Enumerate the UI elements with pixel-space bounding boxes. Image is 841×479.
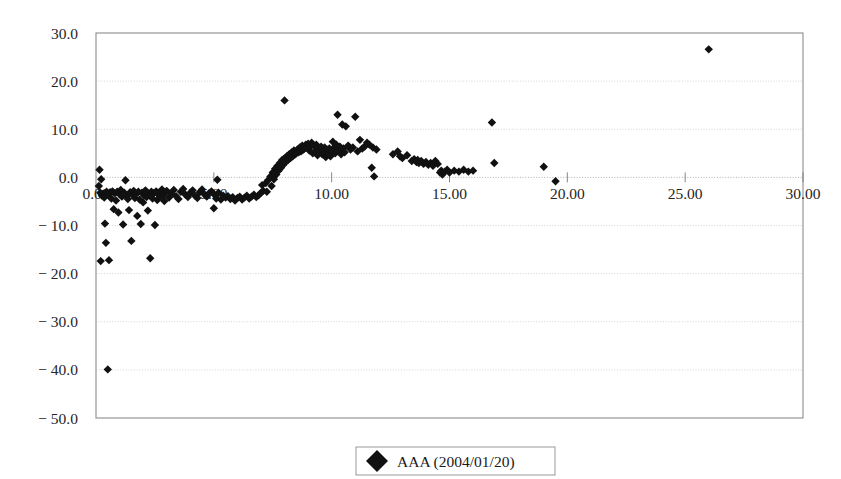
scatter-chart: 30.020.010.00.0− 10.0− 20.0− 30.0− 40.0−… <box>0 0 841 479</box>
data-point <box>121 176 129 184</box>
y-tick-label: − 20.0 <box>38 265 78 282</box>
legend-label: AAA (2004/01/20) <box>397 453 515 471</box>
y-tick-label: 0.0 <box>59 169 79 186</box>
data-point <box>280 96 288 104</box>
data-point <box>551 177 559 185</box>
y-tick-label: 10.0 <box>51 121 78 138</box>
y-tick-label: − 30.0 <box>38 313 78 330</box>
data-point <box>333 111 341 119</box>
data-point <box>101 219 109 227</box>
data-point <box>104 365 112 373</box>
x-tick-label: 25.00 <box>668 185 703 202</box>
data-point <box>119 220 127 228</box>
y-tick-label: − 10.0 <box>38 217 78 234</box>
data-point <box>125 206 133 214</box>
data-point <box>95 165 103 173</box>
y-axis-tick-labels: 30.020.010.00.0− 10.0− 20.0− 30.0− 40.0−… <box>38 25 78 427</box>
y-tick-label: − 40.0 <box>38 361 78 378</box>
data-point <box>705 45 713 53</box>
data-point <box>210 204 218 212</box>
x-tick-label: 30.00 <box>786 185 821 202</box>
y-tick-label: − 50.0 <box>38 410 78 427</box>
data-point <box>97 175 105 183</box>
data-point <box>146 254 154 262</box>
data-point <box>105 256 113 264</box>
gridlines <box>96 81 803 370</box>
data-point <box>97 257 105 265</box>
data-point <box>368 164 376 172</box>
y-tick-label: 20.0 <box>51 73 78 90</box>
x-tick-label: 20.00 <box>550 185 585 202</box>
data-points <box>95 45 713 373</box>
data-point <box>137 220 145 228</box>
data-point <box>133 212 141 220</box>
data-point <box>351 113 359 121</box>
y-tick-label: 30.0 <box>51 25 78 42</box>
x-tick-label: 10.00 <box>314 185 349 202</box>
data-point <box>213 176 221 184</box>
data-point <box>127 237 135 245</box>
data-point <box>102 239 110 247</box>
data-point <box>144 206 152 214</box>
data-point <box>488 118 496 126</box>
data-point <box>151 221 159 229</box>
chart-canvas: 30.020.010.00.0− 10.0− 20.0− 30.0− 40.0−… <box>0 0 841 479</box>
data-point <box>490 159 498 167</box>
data-point <box>370 172 378 180</box>
x-tick-label: 15.00 <box>432 185 467 202</box>
data-point <box>540 163 548 171</box>
chart-legend: AAA (2004/01/20) <box>356 447 555 475</box>
